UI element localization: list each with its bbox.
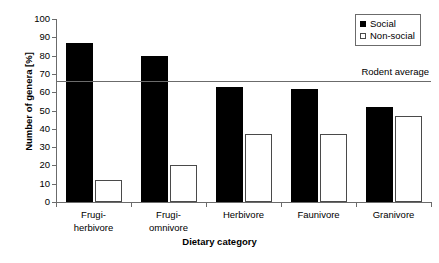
- x-axis-category-label-line: Herbivore: [206, 209, 281, 222]
- y-axis-tick: [52, 37, 56, 38]
- y-axis-tick: [52, 19, 56, 20]
- y-axis-tick-label: 10: [39, 179, 50, 189]
- y-axis-tick: [52, 92, 56, 93]
- bar-social-granivore: [366, 107, 393, 202]
- x-axis-line: [56, 202, 431, 203]
- x-axis-category-label: Frugi-herbivore: [56, 209, 131, 234]
- x-axis-category-label: Herbivore: [206, 209, 281, 222]
- y-axis-tick-label: 70: [39, 69, 50, 79]
- y-axis-line: [56, 19, 57, 202]
- x-axis-title: Dietary category: [0, 236, 439, 247]
- x-axis-tick: [131, 202, 132, 207]
- x-axis-tick: [56, 202, 57, 207]
- x-axis-category-label: Faunivore: [281, 209, 356, 222]
- y-axis-tick-label: 50: [39, 106, 50, 116]
- x-axis-tick: [431, 202, 432, 207]
- y-axis-tick: [52, 147, 56, 148]
- y-axis-tick: [52, 165, 56, 166]
- legend-item-social: Social: [360, 18, 415, 30]
- x-axis-category-label-line: Faunivore: [281, 209, 356, 222]
- bar-social-herbivore: [216, 87, 243, 202]
- x-axis-category-label-line: Frugi-: [56, 209, 131, 222]
- y-axis-title: Number of genera [%]: [23, 22, 34, 182]
- y-axis-tick: [52, 111, 56, 112]
- legend-label-social: Social: [370, 18, 396, 30]
- y-axis-tick: [52, 74, 56, 75]
- bar-social-frugi-herbivore: [66, 43, 93, 202]
- y-axis-tick-label: 30: [39, 142, 50, 152]
- x-axis-tick: [206, 202, 207, 207]
- x-axis-category-label-line: omnivore: [131, 222, 206, 235]
- bar-social-faunivore: [291, 89, 318, 202]
- y-axis-tick: [52, 129, 56, 130]
- open-square-icon: [360, 33, 366, 39]
- plot-area: 0102030405060708090100 Rodent average Fr…: [56, 19, 431, 202]
- bar-non-social-frugi-herbivore: [95, 180, 122, 202]
- bar-non-social-frugi-omnivore: [170, 165, 197, 202]
- y-axis-tick: [52, 56, 56, 57]
- x-axis-tick: [356, 202, 357, 207]
- legend-item-non-social: Non-social: [360, 30, 415, 42]
- y-axis-tick-label: 0: [45, 197, 50, 207]
- rodent-average-label: Rodent average: [361, 67, 429, 77]
- legend-label-non-social: Non-social: [370, 30, 415, 42]
- x-axis-category-label-line: herbivore: [56, 222, 131, 235]
- x-axis-category-label-line: Frugi-: [131, 209, 206, 222]
- y-axis-tick-label: 90: [39, 33, 50, 43]
- x-axis-category-label: Frugi-omnivore: [131, 209, 206, 234]
- chart-figure: Number of genera [%] 0102030405060708090…: [0, 0, 439, 263]
- bar-non-social-granivore: [395, 116, 422, 202]
- y-axis-tick-label: 100: [34, 14, 50, 24]
- y-axis-tick-label: 80: [39, 51, 50, 61]
- bar-social-frugi-omnivore: [141, 56, 168, 202]
- filled-square-icon: [360, 21, 366, 27]
- chart-legend: Social Non-social: [355, 14, 421, 46]
- x-axis-tick: [281, 202, 282, 207]
- y-axis-tick: [52, 184, 56, 185]
- rodent-average-line: [56, 81, 431, 82]
- y-axis-tick-label: 40: [39, 124, 50, 134]
- x-axis-category-label: Granivore: [356, 209, 431, 222]
- y-axis-tick-label: 20: [39, 161, 50, 171]
- bar-non-social-faunivore: [320, 134, 347, 202]
- y-axis-tick-label: 60: [39, 87, 50, 97]
- x-axis-category-label-line: Granivore: [356, 209, 431, 222]
- bar-non-social-herbivore: [245, 134, 272, 202]
